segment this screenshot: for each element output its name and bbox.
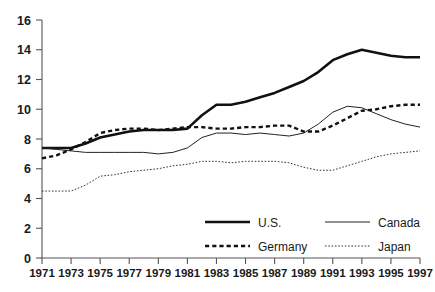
- legend-label-germany: Germany: [258, 240, 307, 254]
- series-line-germany: [42, 105, 420, 159]
- x-tick-label: 1979: [146, 267, 172, 279]
- y-axis: 0246810121416: [17, 14, 42, 266]
- x-tick-label: 1973: [58, 267, 84, 279]
- x-tick-label: 1975: [87, 267, 113, 279]
- legend-label-japan: Japan: [378, 240, 411, 254]
- y-tick-label: 2: [24, 222, 31, 236]
- x-tick-label: 1997: [407, 267, 433, 279]
- x-tick-label: 1971: [29, 267, 55, 279]
- x-tick-label: 1991: [320, 267, 346, 279]
- y-tick-label: 0: [24, 252, 31, 266]
- legend-label-canada: Canada: [378, 216, 420, 230]
- chart-legend: U.S.CanadaGermanyJapan: [205, 216, 420, 254]
- x-axis: 1971197319751977197919811983198519871989…: [29, 258, 433, 279]
- y-tick-label: 16: [17, 14, 31, 28]
- legend-label-us: U.S.: [258, 216, 281, 230]
- y-tick-label: 10: [17, 103, 31, 117]
- y-tick-label: 6: [24, 162, 31, 176]
- line-chart: 0246810121416 19711973197519771979198119…: [0, 0, 435, 292]
- x-tick-label: 1989: [291, 267, 317, 279]
- x-tick-label: 1981: [175, 267, 201, 279]
- y-tick-label: 8: [24, 133, 31, 147]
- data-series-group: [42, 50, 420, 191]
- series-line-canada: [42, 106, 420, 154]
- x-tick-label: 1977: [116, 267, 142, 279]
- x-tick-label: 1983: [204, 267, 230, 279]
- y-tick-label: 14: [17, 43, 31, 57]
- y-tick-label: 12: [17, 73, 31, 87]
- x-tick-label: 1993: [349, 267, 375, 279]
- x-tick-label: 1995: [378, 267, 404, 279]
- series-line-japan: [42, 151, 420, 191]
- y-tick-label: 4: [24, 192, 31, 206]
- x-tick-label: 1985: [233, 267, 259, 279]
- chart-container: 0246810121416 19711973197519771979198119…: [0, 0, 435, 292]
- x-tick-label: 1987: [262, 267, 288, 279]
